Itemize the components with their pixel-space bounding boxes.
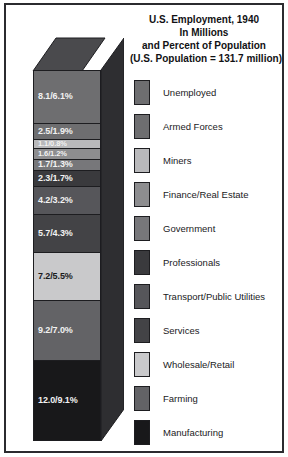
bar-segment-label: 9.2/7.0% <box>34 326 73 335</box>
stacked-bar-chart: 8.1/6.1%2.5/1.9%1.1/0.8%1.6/1.2%1.7/1.3%… <box>28 37 124 447</box>
bar-segment-label: 8.1/6.1% <box>34 92 73 101</box>
legend-swatch <box>134 182 150 207</box>
bar-segment-transport-public-utilities: 4.2/3.2% <box>34 187 100 215</box>
bar-segment-professionals: 2.3/1.7% <box>34 171 100 187</box>
legend-swatch <box>134 216 150 241</box>
legend-label: Finance/Real Estate <box>163 189 249 200</box>
bar-segment-label: 12.0/9.1% <box>34 396 78 405</box>
chart-frame: U.S. Employment, 1940 In Millions and Pe… <box>4 3 284 453</box>
bar-segment-armed-forces: 2.5/1.9% <box>34 124 100 141</box>
bar-top-face-3d <box>28 37 106 71</box>
chart-title-line-1: U.S. Employment, 1940 <box>130 13 278 26</box>
legend-swatch <box>134 386 150 411</box>
bar-segment-government: 1.7/1.3% <box>34 160 100 172</box>
chart-title-line-3: and Percent of Population <box>130 39 278 52</box>
chart-title-line-2: In Millions <box>130 26 278 39</box>
legend-label: Professionals <box>163 257 220 268</box>
bar-segment-finance-real-estate: 1.6/1.2% <box>34 149 100 160</box>
bar-segment-stack: 8.1/6.1%2.5/1.9%1.1/0.8%1.6/1.2%1.7/1.3%… <box>33 70 101 441</box>
legend-item-unemployed: Unemployed <box>134 75 280 109</box>
bar-segment-label: 4.2/3.2% <box>34 196 73 205</box>
bar-side-face-3d <box>100 37 124 445</box>
legend-label: Miners <box>163 155 192 166</box>
legend-swatch <box>134 284 150 309</box>
legend-label: Services <box>163 325 199 336</box>
chart-title-annotation: (U.S. Population = 131.7 million) <box>130 52 278 65</box>
bar-segment-label: 5.7/4.3% <box>34 229 73 238</box>
bar-segment-label: 1.6/1.2% <box>34 150 67 158</box>
bar-segment-wholesale-retail: 7.2/5.5% <box>34 253 100 301</box>
legend-label: Armed Forces <box>163 121 223 132</box>
bar-segment-label: 1.1/0.8% <box>34 140 67 148</box>
legend-label: Wholesale/Retail <box>163 359 234 370</box>
legend-swatch <box>134 318 150 343</box>
legend-swatch <box>134 80 150 105</box>
bar-segment-farming: 9.2/7.0% <box>34 301 100 361</box>
bar-segment-label: 1.7/1.3% <box>34 160 73 169</box>
bar-segment-miners: 1.1/0.8% <box>34 140 100 149</box>
bar-segment-label: 2.5/1.9% <box>34 127 73 136</box>
chart-legend: UnemployedArmed ForcesMinersFinance/Real… <box>134 75 280 449</box>
bar-segment-manufacturing: 12.0/9.1% <box>34 361 100 440</box>
legend-item-armed-forces: Armed Forces <box>134 109 280 143</box>
bar-segment-label: 7.2/5.5% <box>34 272 73 281</box>
legend-item-government: Government <box>134 211 280 245</box>
bar-segment-services: 5.7/4.3% <box>34 215 100 253</box>
bar-segment-unemployed: 8.1/6.1% <box>34 71 100 124</box>
legend-swatch <box>134 148 150 173</box>
legend-swatch <box>134 352 150 377</box>
chart-title-block: U.S. Employment, 1940 In Millions and Pe… <box>130 13 278 65</box>
bar-segment-label: 2.3/1.7% <box>34 174 73 183</box>
legend-item-finance-real-estate: Finance/Real Estate <box>134 177 280 211</box>
legend-label: Manufacturing <box>163 427 223 438</box>
legend-item-wholesale-retail: Wholesale/Retail <box>134 347 280 381</box>
legend-swatch <box>134 420 150 445</box>
legend-label: Farming <box>163 393 198 404</box>
legend-label: Unemployed <box>163 87 216 98</box>
legend-item-miners: Miners <box>134 143 280 177</box>
legend-item-services: Services <box>134 313 280 347</box>
legend-label: Transport/Public Utilities <box>163 291 265 302</box>
legend-item-manufacturing: Manufacturing <box>134 415 280 449</box>
legend-item-professionals: Professionals <box>134 245 280 279</box>
legend-swatch <box>134 114 150 139</box>
legend-item-transport-public-utilities: Transport/Public Utilities <box>134 279 280 313</box>
legend-label: Government <box>163 223 215 234</box>
legend-item-farming: Farming <box>134 381 280 415</box>
legend-swatch <box>134 250 150 275</box>
